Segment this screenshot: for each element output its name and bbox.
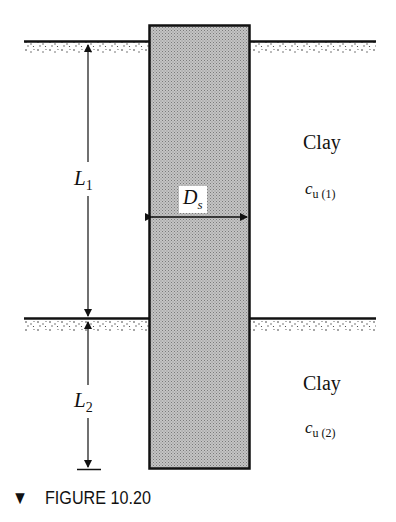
pile-diagram (0, 0, 396, 522)
layer2-name: Clay (303, 372, 341, 395)
layer1-name: Clay (303, 131, 341, 154)
triangle-down-icon: ▼ (12, 487, 28, 509)
figure-caption: ▼FIGURE 10.20 (12, 487, 151, 509)
diameter-symbol: D (183, 186, 197, 208)
l1-symbol: L (74, 166, 86, 190)
figure-caption-text: FIGURE 10.20 (45, 487, 151, 508)
l2-label: L2 (74, 386, 93, 418)
l2-symbol: L (74, 388, 86, 412)
l2-subscript: 2 (86, 400, 93, 415)
layer2-cohesion-symbol: c (305, 418, 313, 437)
diameter-subscript: s (197, 197, 202, 212)
layer1-cohesion-subscript: u (1) (313, 187, 336, 201)
diameter-label: Ds (179, 186, 207, 213)
layer2-cohesion: cu (2) (305, 418, 336, 441)
layer1-cohesion: cu (1) (305, 179, 336, 202)
l1-label: L1 (74, 164, 93, 196)
layer1-cohesion-symbol: c (305, 179, 313, 198)
l1-subscript: 1 (86, 178, 93, 193)
layer2-cohesion-subscript: u (2) (313, 426, 336, 440)
pile-shaft (150, 26, 250, 469)
